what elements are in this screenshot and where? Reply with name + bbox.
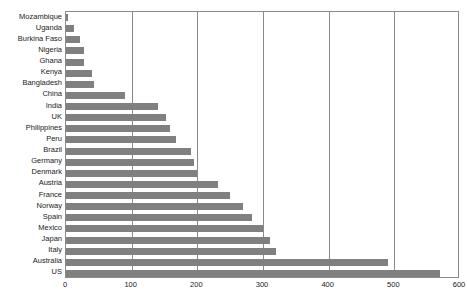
bar — [66, 248, 276, 255]
value-tick-label: 500 — [387, 281, 400, 289]
bar — [66, 114, 166, 121]
bar — [66, 125, 170, 132]
category-label: Mexico — [38, 224, 62, 232]
value-tick-label: 600 — [453, 281, 466, 289]
category-label: Mozambique — [19, 13, 62, 21]
bar — [66, 81, 94, 88]
bar — [66, 270, 440, 277]
bar — [66, 225, 263, 232]
bar — [66, 136, 176, 143]
value-tick-label: 300 — [256, 281, 269, 289]
category-axis-labels: MozambiqueUgandaBurkina FasoNigeriaGhana… — [0, 11, 62, 278]
category-label: Kenya — [41, 68, 62, 76]
category-label: Spain — [43, 213, 62, 221]
bar — [66, 36, 80, 43]
value-axis-labels: 0100200300400500600 — [0, 281, 467, 297]
bar — [66, 59, 84, 66]
bar-series — [66, 12, 458, 277]
category-label: Norway — [37, 202, 62, 210]
category-label: Italy — [48, 246, 62, 254]
plot-area — [65, 11, 459, 278]
category-label: France — [39, 191, 62, 199]
bar — [66, 170, 197, 177]
bar — [66, 92, 125, 99]
bar — [66, 14, 68, 21]
category-label: Austria — [39, 179, 62, 187]
bar — [66, 25, 74, 32]
category-label: US — [52, 268, 62, 276]
category-label: Brazil — [43, 146, 62, 154]
category-label: Japan — [42, 235, 62, 243]
bar — [66, 237, 270, 244]
bar — [66, 148, 191, 155]
bar — [66, 181, 218, 188]
category-label: Philippines — [26, 124, 62, 132]
category-label: Uganda — [36, 24, 62, 32]
bar — [66, 203, 243, 210]
value-tick-label: 0 — [63, 281, 67, 289]
bar — [66, 192, 230, 199]
category-label: Denmark — [32, 168, 62, 176]
category-label: Ghana — [39, 57, 62, 65]
category-label: Peru — [46, 135, 62, 143]
bar — [66, 70, 92, 77]
category-label: UK — [52, 113, 62, 121]
bar — [66, 159, 194, 166]
value-tick-label: 200 — [190, 281, 203, 289]
bar-chart: MozambiqueUgandaBurkina FasoNigeriaGhana… — [0, 0, 467, 301]
category-label: Nigeria — [38, 46, 62, 54]
bar — [66, 259, 388, 266]
category-label: Australia — [33, 257, 62, 265]
category-label: China — [42, 90, 62, 98]
value-tick-label: 100 — [124, 281, 137, 289]
category-label: India — [46, 102, 62, 110]
category-label: Burkina Faso — [18, 35, 62, 43]
category-label: Germany — [31, 157, 62, 165]
bar — [66, 47, 84, 54]
bar — [66, 214, 252, 221]
bar — [66, 103, 158, 110]
category-label: Bangladesh — [22, 79, 62, 87]
value-tick-label: 400 — [321, 281, 334, 289]
